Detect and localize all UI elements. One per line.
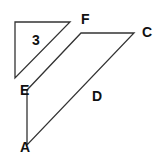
- triangle-shape: [15, 22, 70, 78]
- vertex-label-f: F: [81, 11, 90, 27]
- geometry-diagram: 3 F C E A D: [0, 0, 160, 155]
- vertex-label-c: C: [142, 24, 152, 40]
- vertex-label-a: A: [20, 139, 30, 155]
- vertex-label-e: E: [20, 82, 29, 98]
- side-label-d: D: [92, 88, 102, 104]
- triangle-label: 3: [32, 32, 40, 48]
